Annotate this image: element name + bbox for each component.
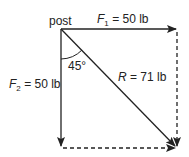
force-diagram: post F1 = 50 lb F2 = 50 lb R = 71 lb 45° (0, 0, 189, 157)
post-label: post (49, 14, 72, 28)
angle-arc (61, 50, 82, 59)
f2-label: F2 = 50 lb (9, 77, 61, 93)
f1-label: F1 = 50 lb (97, 12, 149, 28)
resultant-vector-arrow (61, 29, 175, 146)
resultant-label: R = 71 lb (118, 70, 167, 84)
angle-label: 45° (68, 59, 86, 73)
